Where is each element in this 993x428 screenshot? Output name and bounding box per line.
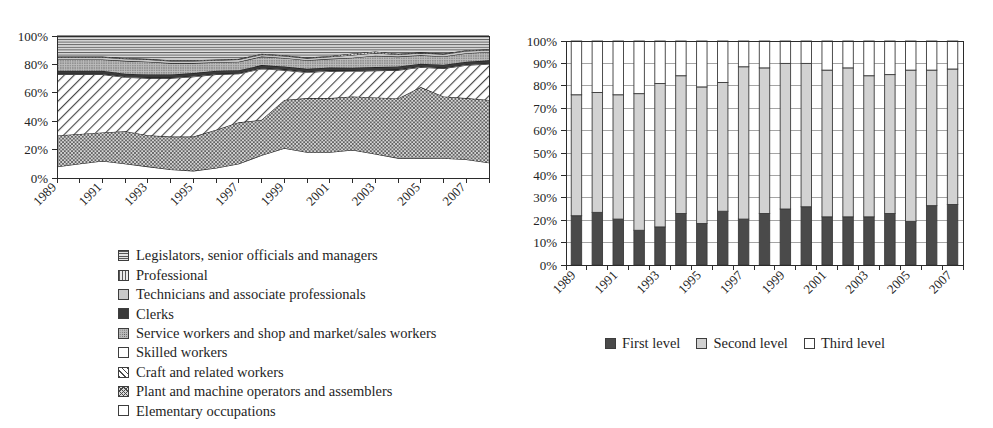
legend-item[interactable]: Elementary occupations <box>118 401 488 420</box>
legend-item[interactable]: Legislators, senior officials and manage… <box>118 246 488 265</box>
y-tick-label-left: 100% <box>18 29 49 44</box>
legend-item[interactable]: Professional <box>118 265 488 284</box>
y-tick-label-right: 100% <box>527 34 558 49</box>
bar-segment <box>717 82 727 211</box>
x-tick-label-left: 1993 <box>121 180 150 209</box>
bar-segment <box>822 217 832 265</box>
legend-item[interactable]: Clerks <box>118 304 488 323</box>
bar-segment <box>780 209 790 265</box>
x-tick-label-left: 1997 <box>212 179 241 208</box>
legend-item-label: Skilled workers <box>136 345 227 360</box>
y-tick-label-right: 40% <box>533 168 557 183</box>
legend-item-label: Plant and machine operators and assemble… <box>136 384 393 399</box>
x-tick-label-right: 1993 <box>633 268 662 297</box>
bar-segment <box>822 70 832 217</box>
legend-swatch-icon <box>118 270 129 281</box>
bar-segment <box>759 41 769 68</box>
bar-segment <box>571 216 581 265</box>
bar-segment <box>571 41 581 95</box>
bar-segment <box>780 41 790 63</box>
bar-segment <box>592 212 602 265</box>
bar-segment <box>801 41 811 63</box>
bar-segment <box>885 75 895 214</box>
x-tick-label-right: 2005 <box>884 268 913 297</box>
legend-item[interactable]: First level <box>605 336 680 351</box>
legend-swatch-icon <box>118 367 129 378</box>
legend-item[interactable]: Skilled workers <box>118 343 488 362</box>
bar-segment <box>906 221 916 265</box>
x-tick-label-right: 1997 <box>717 267 746 296</box>
x-tick-label-left: 1991 <box>76 180 105 209</box>
occupation-structure-area-chart: 0%20%40%60%80%100%1989199119931995199719… <box>0 0 500 240</box>
bar-segment <box>947 69 957 205</box>
legend-swatch-icon <box>118 328 129 339</box>
bar-segment <box>822 41 832 70</box>
x-tick-label-left: 2005 <box>394 180 423 209</box>
bar-segment <box>864 41 874 76</box>
legend-item-label: Professional <box>136 268 208 283</box>
bar-segment <box>634 230 644 265</box>
legend-item-label: Technicians and associate professionals <box>136 287 366 302</box>
bar-segment <box>926 206 936 265</box>
y-tick-label-right: 20% <box>533 213 557 228</box>
bar-segment <box>655 84 665 227</box>
y-tick-label-left: 60% <box>24 85 48 100</box>
bar-segment <box>697 41 707 87</box>
y-tick-label-left: 20% <box>24 142 48 157</box>
legend-item[interactable]: Craft and related workers <box>118 362 488 381</box>
y-tick-label-right: 80% <box>533 78 557 93</box>
legend-item[interactable]: Third level <box>804 336 885 351</box>
legend-swatch-icon <box>696 338 707 349</box>
bar-segment <box>947 205 957 265</box>
legend-swatch-icon <box>118 250 129 261</box>
bar-segment <box>759 213 769 265</box>
bar-segment <box>864 217 874 265</box>
y-tick-label-right: 70% <box>533 101 557 116</box>
bar-segment <box>655 41 665 84</box>
bar-segment <box>697 87 707 224</box>
bar-segment <box>843 41 853 68</box>
x-tick-label-left: 2007 <box>439 179 468 208</box>
legend-item-label: Craft and related workers <box>136 365 284 380</box>
legend-swatch-icon <box>605 338 616 349</box>
y-tick-label-right: 90% <box>533 56 557 71</box>
bar-segment <box>947 41 957 69</box>
legend-item-label: Legislators, senior officials and manage… <box>136 248 378 263</box>
bar-segment <box>926 70 936 206</box>
legend-item[interactable]: Service workers and shop and market/sale… <box>118 324 488 343</box>
legend-item-label: Clerks <box>136 307 174 322</box>
bar-segment <box>738 219 748 265</box>
legend-item[interactable]: Second level <box>696 336 788 351</box>
x-tick-label-right: 1995 <box>675 268 704 297</box>
y-tick-label-right: 30% <box>533 190 557 205</box>
bar-segment <box>697 224 707 265</box>
occupation-structure-chart-panel: 0%20%40%60%80%100%1989199119931995199719… <box>0 0 500 428</box>
bar-segment <box>906 70 916 221</box>
bar-segment <box>864 76 874 217</box>
bar-segment <box>592 41 602 93</box>
bar-segment <box>717 211 727 265</box>
bar-segment <box>738 67 748 219</box>
bar-segment <box>843 68 853 217</box>
x-tick-label-right: 2003 <box>842 268 871 297</box>
bar-segment <box>717 41 727 82</box>
bar-segment <box>780 63 790 209</box>
y-tick-label-left: 40% <box>24 114 48 129</box>
x-tick-label-left: 2003 <box>348 180 377 209</box>
figure-root: 0%20%40%60%80%100%1989199119931995199719… <box>0 0 993 428</box>
bar-segment <box>885 213 895 265</box>
x-tick-label-right: 2001 <box>800 268 829 297</box>
bar-segment <box>738 41 748 67</box>
bar-segment <box>613 95 623 219</box>
x-tick-label-left: 1995 <box>167 180 196 209</box>
legend-item[interactable]: Technicians and associate professionals <box>118 285 488 304</box>
bar-segment <box>676 41 686 76</box>
legend-item-label: Third level <box>821 336 885 351</box>
legend-item-label: First level <box>622 336 680 351</box>
bar-segment <box>676 76 686 214</box>
bar-segment <box>801 207 811 265</box>
legend-item[interactable]: Plant and machine operators and assemble… <box>118 382 488 401</box>
legend-swatch-icon <box>118 405 129 416</box>
bar-segment <box>801 63 811 206</box>
bar-segment <box>634 94 644 231</box>
